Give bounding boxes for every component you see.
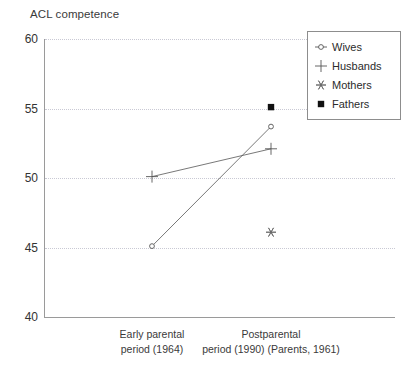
legend-label: Mothers <box>332 79 372 91</box>
x-tick-text-line: period (1990) (Parents, 1961) <box>181 342 361 357</box>
y-tick-label: 45 <box>6 241 38 255</box>
y-tick-text: 60 <box>6 32 38 46</box>
circle-open-icon <box>313 40 331 54</box>
chart-figure: ACL competence 6055504540 Early parental… <box>0 0 411 365</box>
y-tick-label: 60 <box>6 32 38 46</box>
legend-label: Husbands <box>332 60 382 72</box>
y-tick-text: 40 <box>6 310 38 324</box>
data-point-wives <box>269 124 274 129</box>
x-tick-text-line: Postparental <box>181 327 361 342</box>
legend-label: Wives <box>332 41 362 53</box>
gridline-50 <box>45 178 395 179</box>
data-point-husbands <box>146 171 158 183</box>
y-tick-text: 55 <box>6 102 38 116</box>
legend-item-husbands[interactable]: Husbands <box>313 57 382 75</box>
gridline-45 <box>45 248 395 249</box>
legend-item-mothers[interactable]: Mothers <box>313 76 372 94</box>
x-tick-label-1: Postparentalperiod (1990) (Parents, 1961… <box>181 327 361 357</box>
y-tick-text: 50 <box>6 171 38 185</box>
legend-label: Fathers <box>332 98 369 110</box>
plus-icon <box>313 59 331 73</box>
y-axis-title: ACL competence <box>30 8 119 20</box>
square-filled-icon <box>313 97 331 111</box>
x-axis-line <box>44 317 395 318</box>
y-tick-label: 50 <box>6 171 38 185</box>
y-tick-label: 40 <box>6 310 38 324</box>
square-filled-marker <box>318 101 324 107</box>
legend-item-fathers[interactable]: Fathers <box>313 95 369 113</box>
asterisk-marker <box>316 81 326 90</box>
asterisk-icon <box>313 78 331 92</box>
y-tick-text: 45 <box>6 241 38 255</box>
data-point-husbands <box>265 143 277 155</box>
legend-item-wives[interactable]: Wives <box>313 38 362 56</box>
chart-legend: WivesHusbandsMothersFathers <box>307 31 401 120</box>
y-tick-label: 55 <box>6 102 38 116</box>
y-axis-line <box>44 39 45 318</box>
series-line-husbands <box>152 149 271 177</box>
circle-open-marker <box>319 45 324 50</box>
plus-marker <box>315 60 327 72</box>
series-line-wives <box>152 127 271 247</box>
data-point-mothers <box>266 228 276 237</box>
